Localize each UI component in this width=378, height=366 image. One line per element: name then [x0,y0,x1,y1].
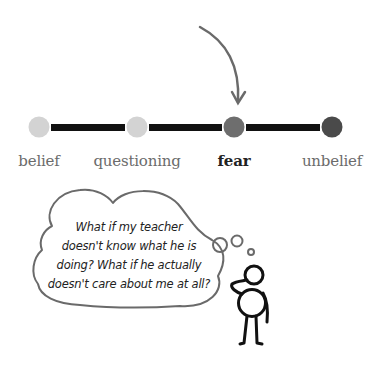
pointer-arrow [200,27,245,103]
stage-dot-unbelief [322,117,343,138]
thought-line: doing? What if he actually [46,256,212,275]
figure-left-leg [240,316,247,344]
thought-line: doesn't care about me at all? [46,275,212,294]
diagram-graphics [0,0,378,366]
stage-label-questioning: questioning [93,152,180,170]
thinking-figure [232,266,268,344]
stage-dot-belief [29,117,50,138]
stage-label-fear: fear [218,152,251,170]
stage-label-unbelief: unbelief [302,152,362,170]
stage-dot-fear [224,117,245,138]
stage-label-belief: belief [18,152,59,170]
thought-line: doesn't know what he is [46,237,212,256]
timeline-connectors [51,124,320,131]
diagram-stage: belief questioning fear unbelief What if… [0,0,378,366]
thought-line: What if my teacher [46,218,212,237]
stage-dot-questioning [127,117,148,138]
thought-text: What if my teacher doesn't know what he … [46,218,212,294]
figure-right-leg [256,316,262,344]
